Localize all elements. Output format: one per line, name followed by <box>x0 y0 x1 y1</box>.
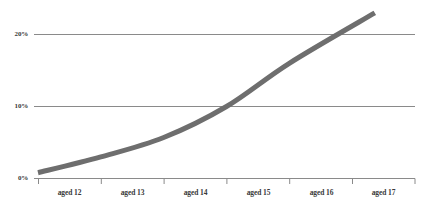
x-tick-label-aged-17: aged 17 <box>352 188 415 197</box>
y-axis-ticks <box>34 35 38 107</box>
x-tick-label-aged-15: aged 15 <box>227 188 290 197</box>
x-tick-label-aged-13: aged 13 <box>101 188 164 197</box>
x-tick-label-aged-14: aged 14 <box>164 188 227 197</box>
line-chart: 20% 10% 0% aged 12 aged 13 aged 14 aged … <box>0 0 428 210</box>
gridlines <box>38 35 415 107</box>
x-tick-label-aged-12: aged 12 <box>38 188 101 197</box>
y-tick-label-20: 20% <box>4 30 28 38</box>
x-axis-ticks <box>39 179 416 185</box>
y-tick-label-10: 10% <box>4 102 28 110</box>
data-series-line <box>38 13 375 173</box>
x-tick-label-aged-16: aged 16 <box>290 188 353 197</box>
y-tick-label-0: 0% <box>4 174 28 182</box>
chart-canvas <box>0 0 428 210</box>
